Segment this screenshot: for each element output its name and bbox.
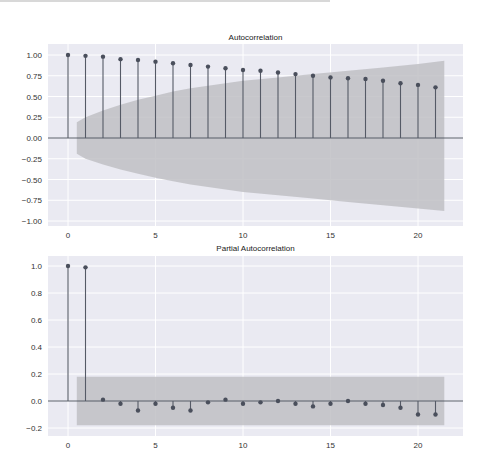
stem-marker <box>328 402 332 406</box>
x-tick-label: 5 <box>153 441 158 450</box>
stem-marker <box>276 399 280 403</box>
stem-marker <box>118 57 122 61</box>
stem-marker <box>171 61 175 65</box>
stem-marker <box>206 400 210 404</box>
stem-marker <box>118 402 122 406</box>
stem-marker <box>83 54 87 58</box>
stem-marker <box>416 412 420 416</box>
stem-marker <box>381 403 385 407</box>
x-tick-label: 0 <box>66 231 71 240</box>
y-tick-label: 0.75 <box>26 72 42 81</box>
stem-marker <box>223 66 227 70</box>
y-tick-label: −0.50 <box>22 176 43 185</box>
y-tick-label: −0.2 <box>26 424 42 433</box>
x-tick-label: 20 <box>414 441 423 450</box>
x-tick-label: 15 <box>326 231 335 240</box>
x-tick-label: 10 <box>239 441 248 450</box>
stem-marker <box>276 70 280 74</box>
stem-marker <box>381 79 385 83</box>
stem-marker <box>293 72 297 76</box>
chart-title: Partial Autocorrelation <box>216 244 294 253</box>
x-tick-label: 20 <box>414 231 423 240</box>
x-tick-label: 15 <box>326 441 335 450</box>
stem-marker <box>258 400 262 404</box>
stem-marker <box>171 406 175 410</box>
stem-marker <box>66 53 70 57</box>
y-tick-label: 0.2 <box>31 370 43 379</box>
y-tick-label: −0.75 <box>22 196 43 205</box>
stem-marker <box>66 264 70 268</box>
acf-pacf-figure: 1.000.750.500.250.00−0.25−0.50−0.75−1.00… <box>0 0 485 466</box>
y-tick-label: 0.50 <box>26 93 42 102</box>
stem-marker <box>363 77 367 81</box>
stem-marker <box>188 63 192 67</box>
stem-marker <box>416 83 420 87</box>
autocorrelation-chart: 1.000.750.500.250.00−0.25−0.50−0.75−1.00… <box>22 33 463 240</box>
y-tick-label: 0.8 <box>31 289 43 298</box>
stem-marker <box>153 59 157 63</box>
y-tick-label: 0.6 <box>31 316 43 325</box>
y-tick-label: −0.25 <box>22 155 43 164</box>
y-tick-label: −1.00 <box>22 217 43 226</box>
stem-marker <box>311 74 315 78</box>
stem-marker <box>136 58 140 62</box>
stem-marker <box>433 412 437 416</box>
stem-marker <box>241 68 245 72</box>
stem-marker <box>398 406 402 410</box>
x-tick-label: 10 <box>239 231 248 240</box>
stem-marker <box>241 402 245 406</box>
y-tick-label: 0.25 <box>26 113 42 122</box>
y-tick-label: 0.0 <box>31 397 43 406</box>
stem-marker <box>101 397 105 401</box>
stem-marker <box>363 402 367 406</box>
stem-marker <box>83 265 87 269</box>
x-tick-label: 0 <box>66 441 71 450</box>
stem-marker <box>153 402 157 406</box>
stem-marker <box>101 54 105 58</box>
stem-marker <box>328 75 332 79</box>
stem-marker <box>311 404 315 408</box>
stem-marker <box>223 397 227 401</box>
y-tick-label: 0.4 <box>31 343 43 352</box>
x-tick-label: 5 <box>153 231 158 240</box>
y-tick-label: 0.00 <box>26 134 42 143</box>
stem-marker <box>206 64 210 68</box>
stem-marker <box>293 402 297 406</box>
stem-marker <box>258 69 262 73</box>
stem-marker <box>346 399 350 403</box>
stem-marker <box>346 76 350 80</box>
partial-autocorrelation-chart: 1.00.80.60.40.20.0−0.205101520Partial Au… <box>26 244 463 450</box>
y-tick-label: 1.00 <box>26 51 42 60</box>
chart-title: Autocorrelation <box>229 33 283 42</box>
stem-marker <box>398 81 402 85</box>
y-tick-label: 1.0 <box>31 262 43 271</box>
stem-marker <box>136 408 140 412</box>
stem-marker <box>188 408 192 412</box>
stem-marker <box>433 85 437 89</box>
